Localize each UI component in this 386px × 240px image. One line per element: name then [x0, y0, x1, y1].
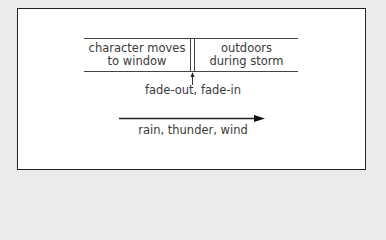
sound-label: rain, thunder, wind [112, 124, 274, 137]
transition-label: fade-out, fade-in [112, 84, 274, 97]
sound-continuity-arrow-icon [119, 115, 265, 122]
